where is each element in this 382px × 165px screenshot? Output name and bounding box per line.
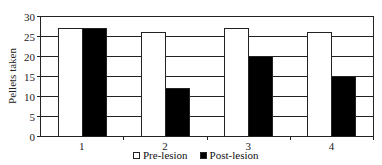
y-tick-label: 15 bbox=[24, 71, 36, 83]
y-tick-label: 20 bbox=[24, 51, 36, 63]
legend-label-pre-lesion: Pre-lesion bbox=[143, 149, 188, 161]
legend-item-pre-lesion: Pre-lesion bbox=[133, 149, 188, 161]
bar-post-lesion-1 bbox=[83, 29, 107, 137]
y-tick-label: 0 bbox=[30, 131, 36, 143]
y-axis-title: Pellets taken bbox=[6, 48, 18, 104]
x-tick-label: 1 bbox=[79, 140, 85, 152]
legend-swatch-pre-lesion bbox=[133, 152, 140, 159]
legend-label-post-lesion: Post-lesion bbox=[210, 149, 259, 161]
y-tick-label: 30 bbox=[24, 11, 36, 23]
y-tick-label: 5 bbox=[30, 111, 36, 123]
bar-post-lesion-3 bbox=[249, 57, 273, 137]
bar-pre-lesion-1 bbox=[59, 29, 83, 137]
legend: Pre-lesion Post-lesion bbox=[133, 149, 259, 161]
y-tick-label: 10 bbox=[24, 91, 36, 103]
bar-pre-lesion-2 bbox=[142, 33, 166, 137]
bar-post-lesion-2 bbox=[166, 89, 190, 137]
bar-pre-lesion-4 bbox=[308, 33, 332, 137]
legend-item-post-lesion: Post-lesion bbox=[200, 149, 259, 161]
bar-chart: 0510152025301234Pellets taken bbox=[0, 0, 382, 165]
x-tick-label: 4 bbox=[329, 140, 335, 152]
bar-pre-lesion-3 bbox=[225, 29, 249, 137]
legend-swatch-post-lesion bbox=[200, 152, 207, 159]
y-tick-label: 25 bbox=[24, 31, 36, 43]
bar-post-lesion-4 bbox=[332, 77, 356, 137]
